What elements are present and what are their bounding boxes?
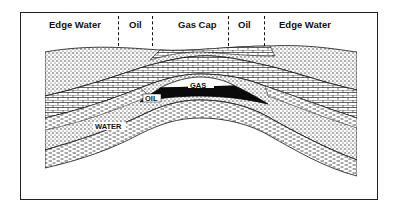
water-label: WATER (95, 122, 122, 131)
oil-label: OIL (145, 94, 158, 103)
gas-label: GAS (190, 81, 206, 90)
cross-section-illustration: GAS OIL WATER (0, 0, 398, 214)
